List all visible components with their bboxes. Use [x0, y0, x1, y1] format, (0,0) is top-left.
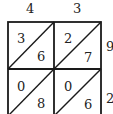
diagonal-r0c1: [54, 22, 101, 69]
diagonal-r1c1: [54, 69, 101, 114]
cell-r0c1-ones: 7: [84, 51, 92, 64]
lattice-grid: [0, 0, 113, 114]
diagonal-r1c0: [8, 69, 54, 114]
cell-r0c0-ones: 6: [37, 50, 45, 63]
cell-r0c1-tens: 2: [64, 32, 72, 45]
cell-r1c1-tens: 0: [64, 80, 72, 93]
multiplier-digit-0: 9: [106, 40, 113, 53]
cell-r0c0-tens: 3: [17, 32, 25, 45]
diagonal-r0c0: [8, 22, 54, 69]
cell-r1c1-ones: 6: [84, 98, 92, 111]
multiplicand-digit-0: 4: [26, 2, 34, 15]
cell-r1c0-tens: 0: [17, 80, 25, 93]
cell-r1c0-ones: 8: [37, 97, 45, 110]
multiplicand-digit-1: 3: [73, 2, 81, 15]
multiplier-digit-1: 2: [106, 92, 113, 105]
